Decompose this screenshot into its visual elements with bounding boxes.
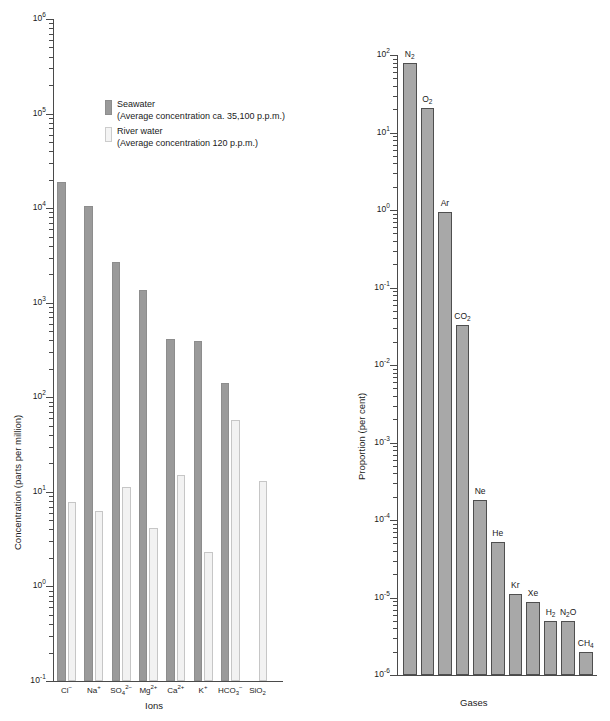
left-y-major-tick (46, 208, 53, 209)
right-y-minor-tick (393, 145, 397, 146)
left-y-minor-tick (49, 501, 53, 502)
left-y-minor-tick (49, 212, 53, 213)
right-y-tick-label: 10-2 (362, 360, 390, 369)
right-y-minor-tick (393, 551, 397, 552)
left-y-minor-tick (49, 246, 53, 247)
right-y-minor-tick (393, 78, 397, 79)
right-y-minor-tick (393, 67, 397, 68)
left-y-tick-label: 104 (18, 203, 46, 212)
right-y-minor-tick (393, 483, 397, 484)
left-y-minor-tick (49, 23, 53, 24)
left-y-minor-tick (49, 596, 53, 597)
left-y-minor-tick (49, 135, 53, 136)
right-y-minor-tick (393, 638, 397, 639)
right-y-major-tick (390, 365, 397, 366)
right-y-minor-tick (393, 63, 397, 64)
left-y-minor-tick (49, 615, 53, 616)
left-y-minor-tick (49, 34, 53, 35)
right-y-minor-tick (393, 300, 397, 301)
right-y-minor-tick (393, 528, 397, 529)
right-y-minor-tick (393, 450, 397, 451)
legend-detail-river-water: (Average concentration 120 p.p.m.) (117, 138, 285, 150)
right-y-minor-tick (393, 227, 397, 228)
right-y-minor-tick (393, 311, 397, 312)
left-y-major-tick (46, 114, 53, 115)
right-y-minor-tick (393, 264, 397, 265)
left-y-minor-tick (49, 402, 53, 403)
right-y-major-tick (390, 443, 397, 444)
right-y-minor-tick (393, 621, 397, 622)
left-y-minor-tick (49, 624, 53, 625)
left-y-axis (53, 19, 54, 681)
gas-bar (509, 594, 523, 675)
right-y-minor-tick (393, 214, 397, 215)
right-y-minor-tick (393, 473, 397, 474)
left-x-axis-title: Ions (145, 700, 163, 711)
right-y-tick-label: 10-1 (362, 283, 390, 292)
left-y-minor-tick (49, 237, 53, 238)
right-y-minor-tick (393, 537, 397, 538)
gas-bar (421, 108, 435, 675)
seawater-bar (194, 341, 203, 681)
legend-detail-seawater: (Average concentration ca. 35,100 p.p.m.… (117, 111, 285, 123)
right-y-tick-label: 10-4 (362, 515, 390, 524)
left-y-minor-tick (49, 412, 53, 413)
ion-category-label: SiO2 (240, 687, 275, 695)
right-y-minor-tick (393, 419, 397, 420)
left-y-minor-tick (49, 331, 53, 332)
river-water-bar (177, 475, 186, 681)
left-y-minor-tick (49, 123, 53, 124)
right-y-major-tick (390, 210, 397, 211)
right-y-minor-tick (393, 72, 397, 73)
left-y-minor-tick (49, 418, 53, 419)
left-y-major-tick (46, 397, 53, 398)
legend-swatch-seawater-icon (105, 100, 112, 115)
left-x-axis (53, 681, 283, 682)
right-y-minor-tick (393, 466, 397, 467)
gas-bar (579, 652, 593, 675)
right-y-minor-tick (393, 628, 397, 629)
right-y-minor-tick (393, 140, 397, 141)
right-y-minor-tick (393, 615, 397, 616)
river-water-bar (231, 420, 240, 681)
gas-bar-label: O2 (414, 95, 442, 104)
left-y-tick-label: 101 (18, 487, 46, 496)
left-y-tick-label: 106 (18, 14, 46, 23)
right-y-minor-tick (393, 373, 397, 374)
right-y-minor-tick (393, 295, 397, 296)
figure-root: Concentration (parts per million) Ions 1… (0, 0, 610, 721)
left-y-tick-label: 105 (18, 109, 46, 118)
right-y-major-tick (390, 598, 397, 599)
left-y-minor-tick (49, 369, 53, 370)
left-y-minor-tick (49, 307, 53, 308)
right-y-tick-label: 101 (362, 128, 390, 137)
right-y-tick-label: 10-3 (362, 438, 390, 447)
left-y-minor-tick (49, 507, 53, 508)
gas-bar (544, 621, 558, 675)
gas-bar-label: N2O (554, 608, 582, 617)
left-y-minor-tick (49, 312, 53, 313)
left-y-major-tick (46, 586, 53, 587)
left-y-minor-tick (49, 591, 53, 592)
river-water-bar (149, 528, 158, 681)
right-y-minor-tick (393, 173, 397, 174)
left-y-minor-tick (49, 180, 53, 181)
left-y-minor-tick (49, 28, 53, 29)
left-y-minor-tick (49, 607, 53, 608)
right-y-minor-tick (393, 163, 397, 164)
right-y-tick-label: 100 (362, 205, 390, 214)
left-y-tick-label: 10-1 (18, 676, 46, 685)
right-y-minor-tick (393, 342, 397, 343)
left-y-minor-tick (49, 435, 53, 436)
legend-swatch-river-water-icon (105, 127, 112, 142)
seawater-bar (139, 290, 148, 681)
left-y-minor-tick (49, 496, 53, 497)
right-y-minor-tick (393, 96, 397, 97)
right-y-axis (397, 55, 398, 675)
right-y-minor-tick (393, 86, 397, 87)
right-y-minor-tick (393, 652, 397, 653)
gas-bar (561, 621, 575, 675)
gas-bar-label: Ne (466, 487, 494, 496)
gas-bar-label: He (484, 529, 512, 538)
seawater-bar (57, 182, 66, 681)
